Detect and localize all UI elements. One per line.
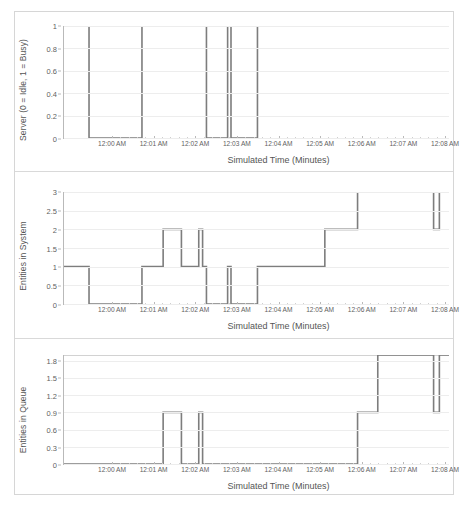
- x-axis-label-entities-queue: Simulated Time (Minutes): [112, 481, 445, 491]
- x-tick-label: 12:00 AM: [98, 140, 126, 147]
- x-tick-label: 12:07 AM: [389, 306, 417, 313]
- y-tick-label: 3: [53, 188, 57, 197]
- x-tick-label: 12:05 AM: [306, 306, 334, 313]
- y-axis-ticks-entities-system: 00.511.522.53: [31, 192, 61, 305]
- y-tick-label: 2: [53, 225, 57, 234]
- x-tick-label: 12:08 AM: [431, 466, 459, 473]
- y-tick-mark: [58, 430, 61, 431]
- y-tick-mark: [58, 229, 61, 230]
- y-tick-mark: [58, 93, 61, 94]
- y-tick-label: 0.2: [47, 112, 57, 121]
- y-tick-label: 1: [53, 263, 57, 272]
- gridline: [64, 248, 449, 249]
- x-tick-label: 12:04 AM: [265, 466, 293, 473]
- gridline: [64, 378, 449, 379]
- y-tick-mark: [58, 139, 61, 140]
- y-tick-label: 0: [53, 135, 57, 144]
- x-tick-label: 12:04 AM: [265, 140, 293, 147]
- x-tick-label: 12:03 AM: [223, 306, 251, 313]
- y-tick-mark: [58, 412, 61, 413]
- gridline: [64, 361, 449, 362]
- plot-area-entities-queue: 12:00 AM12:01 AM12:02 AM12:03 AM12:04 AM…: [63, 355, 449, 465]
- y-tick-mark: [58, 378, 61, 379]
- y-tick-mark: [58, 360, 61, 361]
- y-tick-label: 0.5: [47, 282, 57, 291]
- y-tick-mark: [58, 286, 61, 287]
- x-axis-label-entities-system: Simulated Time (Minutes): [112, 321, 445, 331]
- y-tick-mark: [58, 71, 61, 72]
- gridline: [64, 412, 449, 413]
- gridline: [64, 192, 449, 193]
- gridline: [64, 430, 449, 431]
- gridline: [64, 229, 449, 230]
- x-tick-label: 12:05 AM: [306, 140, 334, 147]
- chart-panel-entities-in-system: Entities in System 00.511.522.53 12:00 A…: [15, 178, 453, 333]
- gridline: [64, 211, 449, 212]
- y-axis-label-entities-queue: Entities in Queue: [15, 345, 31, 495]
- gridline: [64, 304, 449, 305]
- x-tick-label: 12:02 AM: [181, 306, 209, 313]
- y-axis-label-server: Server (0 = Idle, 1 = Busy): [15, 12, 31, 167]
- x-tick-label: 12:05 AM: [306, 466, 334, 473]
- step-line-server: [64, 26, 449, 138]
- y-axis-ticks-server: 00.20.40.60.81: [31, 26, 61, 139]
- x-tick-label: 12:08 AM: [431, 306, 459, 313]
- x-axis-label-server: Simulated Time (Minutes): [112, 155, 445, 165]
- y-tick-label: 0.3: [47, 443, 57, 452]
- y-tick-mark: [58, 26, 61, 27]
- gridline: [64, 447, 449, 448]
- gridline: [64, 285, 449, 286]
- x-axis-ticks-server: 12:00 AM12:01 AM12:02 AM12:03 AM12:04 AM…: [112, 139, 445, 151]
- x-tick-label: 12:01 AM: [140, 140, 168, 147]
- y-tick-label: 1.5: [47, 374, 57, 383]
- y-tick-label: 0: [53, 461, 57, 470]
- x-tick-label: 12:06 AM: [348, 306, 376, 313]
- y-tick-label: 2.5: [47, 206, 57, 215]
- y-tick-label: 0.4: [47, 89, 57, 98]
- y-tick-mark: [58, 447, 61, 448]
- x-tick-label: 12:07 AM: [389, 140, 417, 147]
- gridline: [64, 138, 449, 139]
- y-tick-mark: [58, 267, 61, 268]
- x-tick-label: 12:01 AM: [140, 306, 168, 313]
- y-tick-label: 0.8: [47, 44, 57, 53]
- gridline: [64, 116, 449, 117]
- y-axis-label-entities-system: Entities in System: [15, 178, 31, 333]
- plot-area-server: 12:00 AM12:01 AM12:02 AM12:03 AM12:04 AM…: [63, 26, 449, 139]
- gridline: [64, 26, 449, 27]
- y-tick-mark: [58, 192, 61, 193]
- panel-divider-1: [15, 171, 453, 172]
- y-tick-label: 0: [53, 301, 57, 310]
- panel-divider-2: [15, 338, 453, 339]
- y-tick-label: 0.6: [47, 67, 57, 76]
- gridline: [64, 93, 449, 94]
- y-tick-label: 0.9: [47, 408, 57, 417]
- chart-panel-entities-in-queue: Entities in Queue 00.30.60.91.21.51.8 12…: [15, 345, 453, 495]
- x-tick-label: 12:00 AM: [98, 306, 126, 313]
- x-tick-label: 12:06 AM: [348, 466, 376, 473]
- x-tick-label: 12:08 AM: [431, 140, 459, 147]
- y-tick-label: 1.8: [47, 356, 57, 365]
- x-axis-ticks-entities-system: 12:00 AM12:01 AM12:02 AM12:03 AM12:04 AM…: [112, 305, 445, 317]
- x-tick-label: 12:03 AM: [223, 140, 251, 147]
- plot-area-entities-system: 12:00 AM12:01 AM12:02 AM12:03 AM12:04 AM…: [63, 192, 449, 305]
- y-tick-label: 1.2: [47, 391, 57, 400]
- y-tick-mark: [58, 248, 61, 249]
- x-tick-label: 12:02 AM: [181, 140, 209, 147]
- x-tick-label: 12:02 AM: [181, 466, 209, 473]
- y-tick-mark: [58, 305, 61, 306]
- y-tick-label: 0.6: [47, 426, 57, 435]
- x-tick-label: 12:03 AM: [223, 466, 251, 473]
- y-tick-mark: [58, 210, 61, 211]
- y-tick-label: 1.5: [47, 244, 57, 253]
- gridline: [64, 267, 449, 268]
- gridline: [64, 71, 449, 72]
- figure-page: Server (0 = Idle, 1 = Busy) 00.20.40.60.…: [0, 0, 461, 516]
- x-axis-ticks-entities-queue: 12:00 AM12:01 AM12:02 AM12:03 AM12:04 AM…: [112, 465, 445, 477]
- x-tick-label: 12:06 AM: [348, 140, 376, 147]
- y-tick-mark: [58, 48, 61, 49]
- y-tick-mark: [58, 395, 61, 396]
- chart-panel-server-utilization: Server (0 = Idle, 1 = Busy) 00.20.40.60.…: [15, 12, 453, 167]
- y-tick-mark: [58, 116, 61, 117]
- y-axis-ticks-entities-queue: 00.30.60.91.21.51.8: [31, 355, 61, 465]
